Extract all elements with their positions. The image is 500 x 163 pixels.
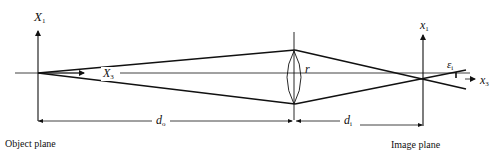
image-distance-arrow-right [418, 123, 423, 127]
ray-upper-image [295, 50, 466, 89]
image-vertical-axis-label: x1 [420, 19, 429, 33]
image-angle-label: εi [447, 59, 453, 72]
ray-upper-object [38, 50, 295, 73]
object-plane-label: Object plane [5, 139, 56, 149]
object-vertical-axis-label: X1 [34, 10, 45, 25]
image-plane-label: Image plane [391, 140, 440, 150]
object-distance-arrow-left [38, 119, 43, 123]
image-distance-arrow-left [296, 119, 301, 123]
object-distance-label: do [156, 114, 166, 128]
lens-radius-label: r [305, 63, 310, 75]
object-optical-axis-label: X3 [101, 67, 116, 81]
object-distance-arrow-right [288, 119, 293, 123]
image-distance-label: di [344, 114, 352, 128]
ray-lower-image [295, 70, 466, 104]
image-optical-axis-label: x3 [480, 74, 489, 88]
ray-lower-object [38, 73, 295, 104]
